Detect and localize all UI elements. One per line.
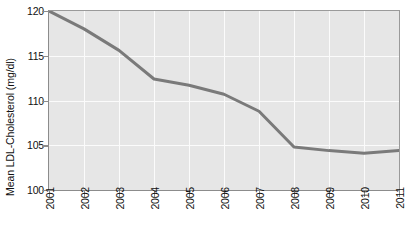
x-tick-label-2004: 2004	[150, 187, 160, 227]
x-tick-label-2001: 2001	[45, 187, 55, 227]
x-tick-label-2011: 2011	[395, 187, 405, 227]
x-tick-label-2003: 2003	[115, 187, 125, 227]
x-tick-label-2007: 2007	[255, 187, 265, 227]
x-tick-label-2009: 2009	[325, 187, 335, 227]
x-tick-label-2005: 2005	[185, 187, 195, 227]
x-tick-label-2008: 2008	[290, 187, 300, 227]
x-tick-label-2006: 2006	[220, 187, 230, 227]
x-tick-label-2010: 2010	[360, 187, 370, 227]
x-tick-label-2002: 2002	[80, 187, 90, 227]
line-chart: Mean LDL-Cholesterol (mg/dl) 120 115 110…	[0, 0, 406, 228]
x-axis-tick-labels: 2001 2002 2003 2004 2005 2006 2007 2008 …	[0, 0, 406, 228]
